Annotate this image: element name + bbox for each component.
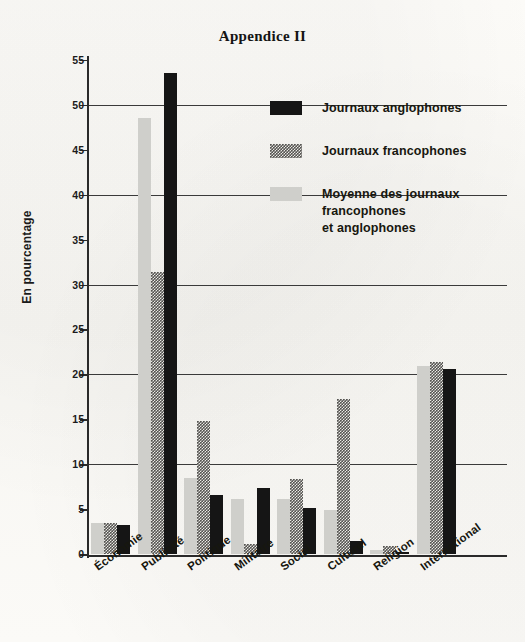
y-tick-label-35: 35 bbox=[58, 234, 84, 246]
bar-moyenne bbox=[417, 366, 430, 554]
bar-group-publicit bbox=[138, 73, 177, 554]
bar-moyenne bbox=[324, 510, 337, 554]
bar-moyenne bbox=[138, 118, 151, 554]
legend-swatch-anglo-icon bbox=[270, 101, 302, 115]
y-tick-label-10: 10 bbox=[58, 458, 84, 470]
bar-franco bbox=[197, 421, 210, 554]
bar-franco bbox=[430, 362, 443, 554]
y-tick-label-55: 55 bbox=[58, 54, 84, 66]
page-title: Appendice II bbox=[0, 28, 525, 45]
bar-franco bbox=[337, 399, 350, 554]
legend-item-franco: Journaux francophones bbox=[270, 143, 510, 160]
y-tick-label-45: 45 bbox=[58, 144, 84, 156]
legend-label-anglo: Journaux anglophones bbox=[322, 100, 462, 117]
legend-item-moyenne: Moyenne des journauxfrancophoneset anglo… bbox=[270, 186, 510, 237]
bar-group-social bbox=[277, 479, 316, 554]
bar-moyenne bbox=[231, 499, 244, 554]
legend-label-moyenne: Moyenne des journauxfrancophoneset anglo… bbox=[322, 186, 459, 237]
bar-anglo bbox=[164, 73, 177, 554]
legend-label-franco: Journaux francophones bbox=[322, 143, 466, 160]
y-tick-label-40: 40 bbox=[58, 189, 84, 201]
y-tick-label-0: 0 bbox=[58, 548, 84, 560]
y-tick-label-5: 5 bbox=[58, 503, 84, 515]
y-tick-label-15: 15 bbox=[58, 413, 84, 425]
y-tick-label-50: 50 bbox=[58, 99, 84, 111]
y-tick-label-25: 25 bbox=[58, 323, 84, 335]
legend-swatch-moyenne-icon bbox=[270, 187, 302, 201]
bar-anglo bbox=[443, 369, 456, 554]
y-tick-label-30: 30 bbox=[58, 279, 84, 291]
y-tick-label-20: 20 bbox=[58, 368, 84, 380]
legend-item-anglo: Journaux anglophones bbox=[270, 100, 510, 117]
bar-moyenne bbox=[277, 499, 290, 554]
chart-legend: Journaux anglophonesJournaux francophone… bbox=[270, 100, 510, 262]
bar-franco bbox=[151, 272, 164, 554]
bar-group-international bbox=[417, 362, 456, 554]
bar-franco bbox=[290, 479, 303, 554]
y-axis-label: En pourcentage bbox=[20, 197, 34, 317]
bar-moyenne bbox=[370, 550, 383, 554]
legend-swatch-franco-icon bbox=[270, 144, 302, 158]
bar-group-politique bbox=[184, 421, 223, 554]
bar-group-culturel bbox=[324, 399, 363, 554]
bar-moyenne bbox=[91, 523, 104, 554]
